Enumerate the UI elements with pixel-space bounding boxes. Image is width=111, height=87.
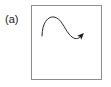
panel-border-box — [31, 5, 102, 80]
panel-label: (a) — [5, 12, 29, 26]
figure-panel: (a) — [0, 0, 111, 87]
